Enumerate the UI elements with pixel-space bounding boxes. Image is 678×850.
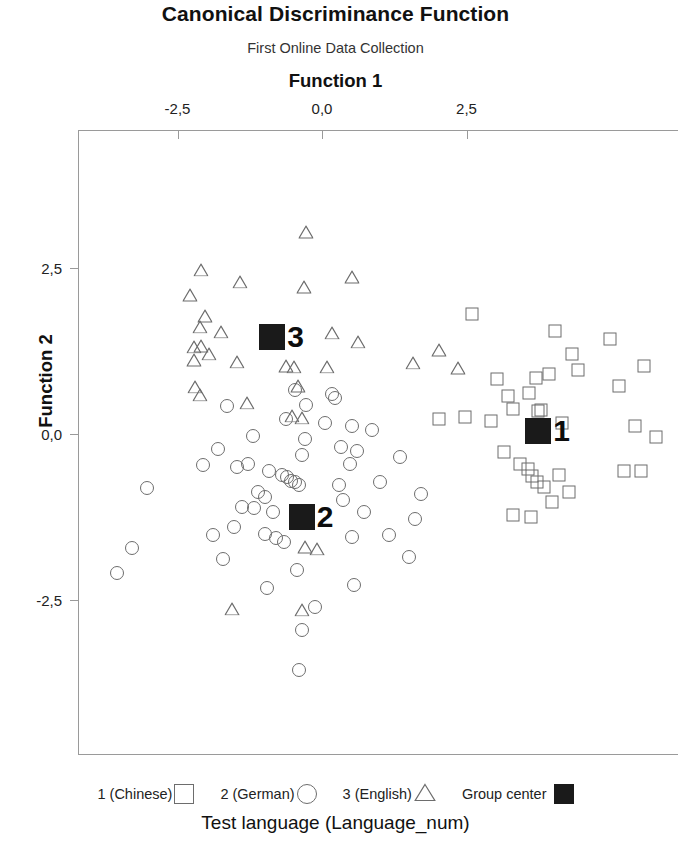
triangle-marker — [287, 360, 302, 374]
circle-marker — [328, 391, 342, 405]
x-tick — [322, 130, 323, 139]
y-tick — [70, 268, 79, 269]
circle-marker — [382, 528, 396, 542]
circle-marker — [125, 541, 139, 555]
triangle-marker — [294, 411, 309, 425]
circle-marker — [345, 419, 359, 433]
circle-marker — [196, 458, 210, 472]
group-center-marker — [289, 504, 315, 530]
circle-marker — [334, 440, 348, 454]
triangle-marker — [186, 353, 201, 367]
triangle-marker — [213, 324, 228, 338]
square-marker — [629, 420, 642, 433]
triangle-marker — [310, 541, 325, 555]
square-marker — [507, 403, 520, 416]
y-tick-label: 2,5 — [0, 260, 62, 277]
circle-marker — [297, 784, 317, 804]
legend-item[interactable]: 2 (German) — [220, 784, 316, 804]
square-marker — [562, 485, 575, 498]
legend-item-label: 1 (Chinese) — [97, 786, 172, 802]
triangle-marker — [414, 783, 436, 805]
circle-marker — [347, 578, 361, 592]
circle-marker — [373, 475, 387, 489]
square-marker — [530, 372, 543, 385]
triangle-marker — [431, 343, 446, 357]
triangle-marker — [350, 334, 365, 348]
square-marker — [466, 307, 479, 320]
triangle-marker — [202, 346, 217, 360]
chart-subtitle: First Online Data Collection — [0, 40, 671, 56]
triangle-marker — [183, 288, 198, 302]
circle-marker — [318, 416, 332, 430]
legend-title: Test language (Language_num) — [0, 812, 671, 834]
circle-marker — [241, 457, 255, 471]
legend-item[interactable]: 1 (Chinese) — [97, 784, 194, 804]
triangle-marker — [406, 356, 421, 370]
circle-marker — [292, 663, 306, 677]
triangle-marker — [192, 320, 207, 334]
x-tick-label: -2,5 — [165, 100, 191, 117]
circle-marker — [206, 528, 220, 542]
y-tick — [70, 600, 79, 601]
group-center-marker — [525, 418, 551, 444]
circle-marker — [266, 505, 280, 519]
legend-item-label: 3 (English) — [343, 786, 412, 802]
triangle-marker — [325, 326, 340, 340]
circle-marker — [246, 429, 260, 443]
triangle-marker — [298, 225, 313, 239]
circle-marker — [290, 563, 304, 577]
circle-marker — [336, 493, 350, 507]
square-marker — [572, 364, 585, 377]
circle-marker — [140, 481, 154, 495]
y-tick-label: 0,0 — [0, 426, 62, 443]
legend-item-label: 2 (German) — [220, 786, 294, 802]
square-marker — [613, 379, 626, 392]
square-marker — [485, 414, 498, 427]
triangle-marker — [290, 379, 305, 393]
triangle-marker — [232, 275, 247, 289]
square-marker — [501, 390, 514, 403]
filled-square-marker — [554, 784, 574, 804]
group-center-label: 1 — [553, 416, 570, 446]
x-axis-title: Function 1 — [0, 70, 671, 92]
circle-marker — [308, 600, 322, 614]
square-marker — [498, 445, 511, 458]
legend-item[interactable]: Group center — [462, 784, 574, 804]
circle-marker — [345, 530, 359, 544]
square-marker — [650, 431, 663, 444]
triangle-marker — [345, 270, 360, 284]
square-marker — [548, 325, 561, 338]
square-marker — [637, 360, 650, 373]
square-marker — [543, 368, 556, 381]
x-tick — [467, 130, 468, 139]
triangle-marker — [296, 280, 311, 294]
group-center-marker — [259, 324, 285, 350]
group-center-label: 3 — [287, 322, 304, 352]
triangle-marker — [192, 387, 207, 401]
circle-marker — [277, 535, 291, 549]
x-tick-label: 2,5 — [456, 100, 477, 117]
square-marker — [546, 495, 559, 508]
legend-item[interactable]: 3 (English) — [343, 783, 436, 805]
y-tick — [70, 434, 79, 435]
circle-marker — [216, 552, 230, 566]
triangle-marker — [225, 601, 240, 615]
square-marker — [525, 511, 538, 524]
triangle-marker — [294, 603, 309, 617]
circle-marker — [292, 478, 306, 492]
square-marker — [433, 413, 446, 426]
triangle-marker — [239, 395, 254, 409]
square-marker — [617, 464, 630, 477]
circle-marker — [247, 501, 261, 515]
circle-marker — [227, 520, 241, 534]
square-marker — [522, 386, 535, 399]
circle-marker — [220, 399, 234, 413]
circle-marker — [295, 448, 309, 462]
square-marker — [174, 784, 194, 804]
triangle-marker — [319, 360, 334, 374]
square-marker — [635, 465, 648, 478]
square-marker — [603, 333, 616, 346]
y-tick-label: -2,5 — [0, 592, 62, 609]
legend-item-label: Group center — [462, 786, 547, 802]
